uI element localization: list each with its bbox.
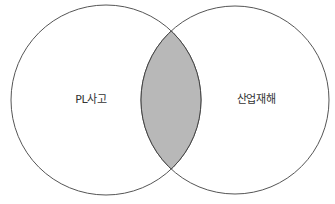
- set-label-industrial-accident: 산업재해: [237, 90, 276, 106]
- set-label-pl-accident: PL사고: [75, 90, 107, 106]
- venn-diagram: [0, 0, 335, 204]
- intersection-region: [141, 6, 329, 194]
